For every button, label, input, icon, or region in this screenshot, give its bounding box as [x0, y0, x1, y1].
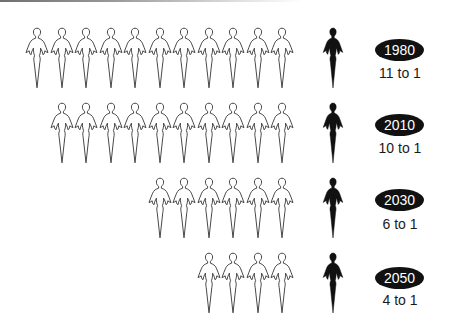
outline-figure	[221, 252, 245, 314]
outline-figure	[25, 27, 49, 89]
person-outline-icon	[270, 252, 294, 314]
outline-figure	[50, 27, 74, 89]
dark-figure	[321, 102, 345, 164]
outline-figure	[197, 102, 221, 164]
person-outline-icon	[123, 27, 147, 89]
person-solid-icon	[321, 102, 345, 164]
person-outline-icon	[148, 102, 172, 164]
ratio-label: 4 to 1	[370, 293, 430, 307]
outline-figure	[270, 177, 294, 239]
person-outline-icon	[123, 102, 147, 164]
person-outline-icon	[221, 177, 245, 239]
person-outline-icon	[172, 27, 196, 89]
outline-figure	[74, 102, 98, 164]
outline-figure	[221, 177, 245, 239]
outline-figure	[246, 102, 270, 164]
person-outline-icon	[246, 27, 270, 89]
person-solid-icon	[321, 27, 345, 89]
outline-figure	[270, 102, 294, 164]
outline-figure	[270, 27, 294, 89]
ratio-label: 11 to 1	[370, 66, 430, 80]
outline-figure	[172, 102, 196, 164]
person-outline-icon	[246, 252, 270, 314]
outline-figure	[99, 27, 123, 89]
outline-figure	[99, 102, 123, 164]
ratio-label: 6 to 1	[370, 217, 430, 231]
person-outline-icon	[25, 27, 49, 89]
person-solid-icon	[321, 252, 345, 314]
outline-figure	[246, 177, 270, 239]
person-outline-icon	[221, 252, 245, 314]
dark-figure	[321, 27, 345, 89]
year-badge: 2050	[375, 267, 424, 289]
person-outline-icon	[172, 102, 196, 164]
person-outline-icon	[270, 177, 294, 239]
dark-figure	[321, 252, 345, 314]
year-badge: 2010	[375, 114, 424, 136]
person-solid-icon	[321, 177, 345, 239]
outline-figure	[246, 27, 270, 89]
outline-figure	[74, 27, 98, 89]
outline-figure	[221, 27, 245, 89]
person-outline-icon	[197, 27, 221, 89]
dark-figure	[321, 177, 345, 239]
person-outline-icon	[270, 27, 294, 89]
outline-figure	[221, 102, 245, 164]
person-outline-icon	[197, 102, 221, 164]
person-outline-icon	[74, 27, 98, 89]
person-outline-icon	[270, 102, 294, 164]
person-outline-icon	[172, 177, 196, 239]
person-outline-icon	[246, 177, 270, 239]
year-badge: 2030	[375, 189, 424, 211]
outline-figure	[197, 177, 221, 239]
outline-figure	[197, 27, 221, 89]
person-outline-icon	[246, 102, 270, 164]
outline-figure	[270, 252, 294, 314]
top-gradient-rule	[0, 0, 466, 2]
ratio-label: 10 to 1	[370, 141, 430, 155]
outline-figure	[246, 252, 270, 314]
outline-figure	[172, 27, 196, 89]
person-outline-icon	[50, 102, 74, 164]
outline-figure	[148, 102, 172, 164]
year-badge: 1980	[375, 39, 424, 61]
person-outline-icon	[148, 27, 172, 89]
person-outline-icon	[221, 102, 245, 164]
outline-figure	[197, 252, 221, 314]
outline-figure	[123, 102, 147, 164]
person-outline-icon	[50, 27, 74, 89]
person-outline-icon	[74, 102, 98, 164]
outline-figure	[123, 27, 147, 89]
person-outline-icon	[197, 177, 221, 239]
outline-figure	[148, 177, 172, 239]
outline-figure	[50, 102, 74, 164]
person-outline-icon	[221, 27, 245, 89]
person-outline-icon	[99, 102, 123, 164]
outline-figure	[148, 27, 172, 89]
person-outline-icon	[99, 27, 123, 89]
person-outline-icon	[197, 252, 221, 314]
outline-figure	[172, 177, 196, 239]
person-outline-icon	[148, 177, 172, 239]
